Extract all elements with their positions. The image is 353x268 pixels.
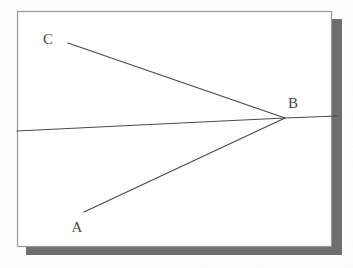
point-label-c: C xyxy=(43,31,53,47)
point-label-a: A xyxy=(72,219,83,235)
ray-diagram-svg: C B A xyxy=(0,0,353,268)
point-label-b: B xyxy=(288,95,298,111)
figure-root: C B A xyxy=(0,0,353,268)
